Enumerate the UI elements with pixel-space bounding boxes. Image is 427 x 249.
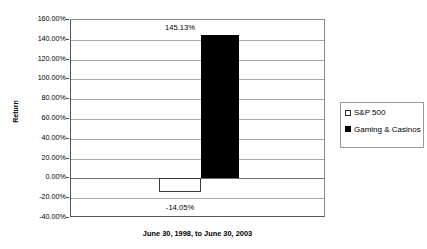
y-tick-mark-20: [66, 158, 69, 159]
y-tick-label-80: 80.00%: [18, 94, 66, 102]
y-tick-mark-100: [66, 78, 69, 79]
y-tick-label-neg20: -20.00%: [18, 193, 66, 201]
y-axis-tick-labels: 160.00% 140.00% 120.00% 100.00% 80.00% 6…: [18, 19, 66, 217]
legend-swatch-icon-gaming-casinos: [345, 126, 351, 132]
y-tick-label-100: 100.00%: [18, 74, 66, 82]
x-axis-title: June 30, 1998, to June 30, 2003: [70, 229, 325, 238]
y-tick-mark-160: [66, 19, 69, 20]
y-tick-label-0: 0.00%: [18, 173, 66, 181]
y-tick-mark-0: [66, 177, 69, 178]
legend-item-snp-500[interactable]: S&P 500: [345, 108, 423, 118]
data-label-snp-500: -14.05%: [166, 203, 194, 212]
legend-label-snp-500: S&P 500: [354, 108, 385, 118]
y-tick-label-160: 160.00%: [18, 15, 66, 23]
data-label-gaming-casinos: 145.13%: [165, 23, 195, 32]
bars-layer: [71, 20, 324, 216]
y-tick-label-120: 120.00%: [18, 55, 66, 63]
y-tick-mark-140: [66, 39, 69, 40]
y-tick-label-20: 20.00%: [18, 154, 66, 162]
legend-label-gaming-casinos: Gaming & Casinos: [354, 125, 421, 135]
y-tick-mark-120: [66, 59, 69, 60]
y-tick-mark-neg20: [66, 197, 69, 198]
y-tick-label-neg40: -40.00%: [18, 213, 66, 221]
bar-snp-500[interactable]: [159, 178, 201, 192]
y-tick-mark-80: [66, 98, 69, 99]
bar-gaming-casinos[interactable]: [201, 35, 239, 179]
bar-chart: Return 160.00% 140.00% 120.00% 100.00% 8…: [0, 0, 427, 249]
y-tick-label-60: 60.00%: [18, 114, 66, 122]
chart-legend: S&P 500 Gaming & Casinos: [340, 102, 424, 148]
y-tick-mark-60: [66, 118, 69, 119]
legend-item-gaming-casinos[interactable]: Gaming & Casinos: [345, 125, 423, 135]
y-tick-label-140: 140.00%: [18, 35, 66, 43]
legend-swatch-icon-snp-500: [345, 110, 351, 116]
y-tick-label-40: 40.00%: [18, 134, 66, 142]
plot-area: 145.13% -14.05%: [70, 19, 325, 217]
y-tick-mark-neg40: [66, 217, 69, 218]
y-tick-mark-40: [66, 138, 69, 139]
